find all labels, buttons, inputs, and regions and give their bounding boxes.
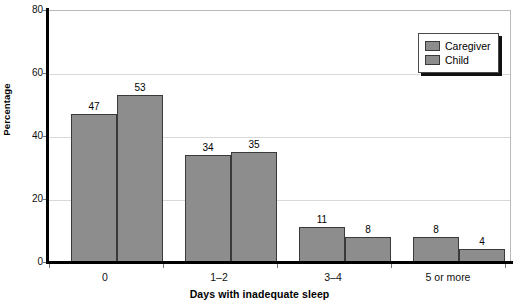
x-tick-mark-start [49, 264, 50, 268]
legend-item-caregiver: Caregiver [425, 39, 491, 53]
bar-0-child [117, 95, 163, 262]
y-tick-label-40: 40 [19, 131, 43, 141]
legend-item-child: Child [425, 53, 491, 67]
bar-label-1-2-child: 35 [231, 140, 277, 150]
bar-5-or-more-caregiver [413, 237, 459, 262]
bar-1-2-caregiver [185, 155, 231, 262]
x-tick-label-0: 0 [71, 271, 139, 283]
x-tick-mark-3 [391, 264, 392, 268]
legend-label-child: Child [445, 55, 469, 66]
bar-label-3-4-caregiver: 11 [299, 215, 345, 225]
bar-label-0-caregiver: 47 [71, 102, 117, 112]
bar-label-0-child: 53 [117, 83, 163, 93]
x-tick-mark-1 [163, 264, 164, 268]
bar-0-caregiver [71, 114, 117, 262]
legend-swatch-child [425, 55, 440, 65]
x-tick-label-5-or-more: 5 or more [404, 271, 492, 283]
bar-1-2-child [231, 152, 277, 262]
gridline-60 [49, 74, 510, 75]
y-axis-line [46, 8, 49, 264]
bar-3-4-caregiver [299, 227, 345, 262]
legend-label-caregiver: Caregiver [445, 41, 491, 52]
x-tick-label-1-2: 1–2 [185, 271, 253, 283]
legend-swatch-caregiver [425, 41, 440, 51]
bar-label-1-2-caregiver: 34 [185, 143, 231, 153]
y-tick-label-0: 0 [19, 257, 43, 267]
y-axis-tick-labels: 80 60 40 20 0 [0, 0, 43, 308]
x-axis-line [46, 261, 513, 264]
y-tick-label-20: 20 [19, 194, 43, 204]
bar-3-4-child [345, 237, 391, 262]
y-tick-label-60: 60 [19, 68, 43, 78]
bar-label-3-4-child: 8 [345, 225, 391, 235]
legend: Caregiver Child [418, 33, 499, 73]
bar-chart: Percentage 80 60 40 20 0 47 53 34 35 1 [0, 0, 519, 308]
x-axis-title: Days with inadequate sleep [0, 288, 519, 300]
plot-area: 47 53 34 35 11 8 8 4 Caregiver Child [49, 10, 511, 262]
x-tick-mark-2 [277, 264, 278, 268]
x-tick-label-3-4: 3–4 [299, 271, 367, 283]
bar-label-5-or-more-child: 4 [459, 237, 505, 247]
y-tick-label-80: 80 [19, 5, 43, 15]
bar-label-5-or-more-caregiver: 8 [413, 225, 459, 235]
x-tick-mark-end [505, 264, 506, 268]
